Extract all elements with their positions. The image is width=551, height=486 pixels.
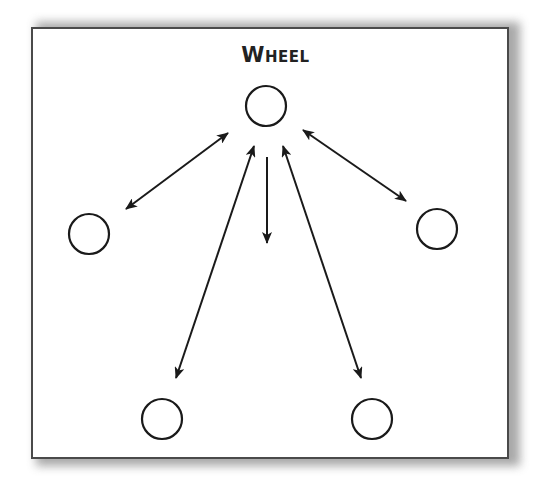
node-bottom-right bbox=[352, 399, 392, 439]
node-center bbox=[246, 86, 286, 126]
edge-center-right bbox=[303, 130, 406, 201]
edge-center-left bbox=[126, 133, 228, 209]
node-right bbox=[417, 209, 457, 249]
edge-center-bottom-left bbox=[176, 146, 254, 378]
edge-center-bottom-right bbox=[283, 146, 361, 378]
node-left bbox=[69, 214, 109, 254]
wheel-diagram bbox=[0, 0, 551, 486]
node-bottom-left bbox=[142, 399, 182, 439]
